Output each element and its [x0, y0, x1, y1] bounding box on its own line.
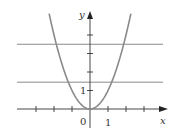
y-tick-label-1: 1: [80, 85, 86, 96]
x-axis-label: x: [160, 115, 166, 126]
y-axis-arrow-icon: [87, 11, 93, 19]
y-axis-label: y: [78, 9, 85, 20]
axes: [17, 11, 168, 128]
x-tick-label-1: 1: [105, 117, 111, 128]
origin-label: 0: [80, 116, 86, 127]
x-axis-arrow-icon: [159, 106, 168, 112]
chart: y x 0 1 1: [0, 0, 180, 134]
